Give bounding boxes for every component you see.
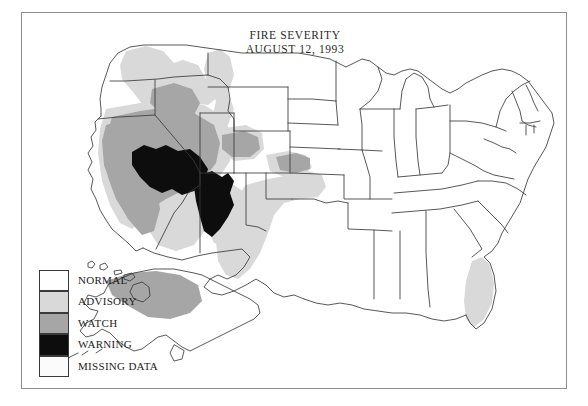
line-in-oh bbox=[416, 109, 420, 175]
legend-item-warning: WARNING bbox=[39, 334, 189, 356]
line-sc-nc bbox=[478, 201, 508, 233]
line-ma-ct-ri bbox=[520, 121, 540, 135]
legend-label-warning: WARNING bbox=[78, 338, 132, 350]
map-legend: NORMAL ADVISORY WATCH WARNING MISSING DA… bbox=[39, 269, 189, 377]
line-al-ga bbox=[426, 211, 430, 307]
line-nd-mn bbox=[336, 61, 338, 125]
legend-label-missing-data: MISSING DATA bbox=[78, 360, 158, 372]
line-ar-la bbox=[348, 203, 392, 231]
legend-item-watch: WATCH bbox=[39, 312, 189, 334]
line-ky-tn bbox=[394, 181, 478, 193]
line-mo-ar bbox=[344, 175, 392, 199]
legend-swatch-normal bbox=[39, 270, 69, 292]
line-pa-ny bbox=[450, 121, 506, 131]
line-pa-md-nj bbox=[484, 139, 516, 153]
line-ne-ks bbox=[290, 147, 340, 149]
line-ga-sc bbox=[454, 209, 482, 257]
legend-label-watch: WATCH bbox=[78, 317, 117, 329]
line-ok-tx bbox=[292, 199, 348, 203]
line-va-wv-md bbox=[450, 153, 514, 179]
line-oh-mi bbox=[416, 105, 448, 109]
legend-swatch-watch bbox=[39, 313, 69, 335]
legend-swatch-missing-data bbox=[39, 356, 69, 378]
legend-swatch-advisory bbox=[39, 291, 69, 313]
legend-swatch-warning bbox=[39, 334, 69, 356]
line-nd-sd bbox=[288, 99, 336, 101]
legend-label-normal: NORMAL bbox=[78, 274, 127, 286]
line-nh-me bbox=[526, 85, 538, 111]
legend-item-missing-data: MISSING DATA bbox=[39, 355, 189, 377]
outline-gulf-coast bbox=[304, 299, 466, 321]
line-ia-mo bbox=[338, 149, 382, 151]
map-frame-border: FIRE SEVERITY AUGUST 12, 1993 bbox=[21, 12, 567, 389]
line-mi-lake bbox=[400, 73, 434, 109]
line-sd-ne bbox=[288, 123, 338, 125]
line-il-mo bbox=[362, 150, 370, 199]
fire-severity-map-figure: FIRE SEVERITY AUGUST 12, 1993 bbox=[0, 0, 588, 406]
line-ia-il bbox=[360, 109, 362, 150]
advisory-florida bbox=[464, 257, 494, 327]
line-mn-wi bbox=[360, 67, 382, 109]
line-ny-ne bbox=[496, 81, 530, 127]
line-tn-al-ga bbox=[392, 201, 478, 213]
line-oh-pa-wv bbox=[442, 105, 450, 173]
hawaii-kauai bbox=[88, 261, 95, 268]
line-il-in bbox=[394, 109, 398, 177]
line-nc-va bbox=[478, 181, 526, 195]
legend-label-advisory: ADVISORY bbox=[78, 295, 137, 307]
line-ny-vt-ma bbox=[512, 91, 536, 127]
legend-item-advisory: ADVISORY bbox=[39, 291, 189, 313]
legend-item-normal: NORMAL bbox=[39, 269, 189, 291]
